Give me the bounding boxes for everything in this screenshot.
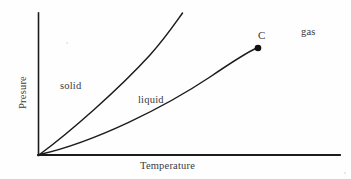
y-axis-label: Presure [17,62,28,124]
scan-artifact-speck [344,172,346,174]
critical-point-marker [255,45,262,52]
phase-diagram-canvas [0,0,351,179]
region-label-solid: solid [60,80,81,91]
scan-artifact-speck [66,42,68,44]
region-label-liquid: liquid [138,94,164,105]
x-axis-label: Temperature [140,160,195,171]
region-label-gas: gas [301,26,316,37]
critical-point-label: C [258,29,266,41]
phase-diagram-figure: solid liquid gas C Temperature Presure [0,0,351,179]
